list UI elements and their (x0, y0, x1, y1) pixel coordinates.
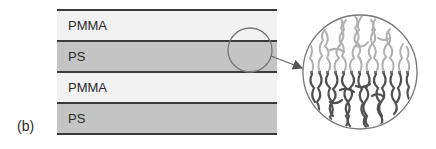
source-circle (228, 28, 272, 72)
magnifier-overlay (0, 0, 436, 149)
arrow-icon (271, 56, 302, 68)
